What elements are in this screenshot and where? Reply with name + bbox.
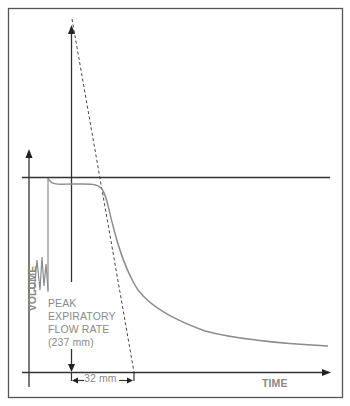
interval-arrowhead-left [72, 378, 78, 384]
peak-line-3: FLOW RATE [48, 323, 116, 336]
time-axis-label: TIME [262, 377, 287, 390]
peak-line-1: PEAK [48, 297, 116, 310]
volume-axis-label: VOLUME [26, 259, 39, 319]
peak-line-4: (237 mm) [48, 336, 116, 349]
peak-flow-annotation: PEAK EXPIRATORY FLOW RATE (237 mm) [48, 297, 116, 349]
interval-label: 32 mm [84, 372, 117, 385]
volume-axis-arrowhead [26, 149, 33, 158]
spirometry-figure: VOLUME PEAK EXPIRATORY FLOW RATE (237 mm… [0, 0, 350, 406]
peak-flow-arrowhead-down [68, 364, 75, 372]
peak-line-2: EXPIRATORY [48, 310, 116, 323]
time-axis-arrowhead [322, 369, 331, 376]
interval-arrowhead-right [127, 378, 133, 384]
